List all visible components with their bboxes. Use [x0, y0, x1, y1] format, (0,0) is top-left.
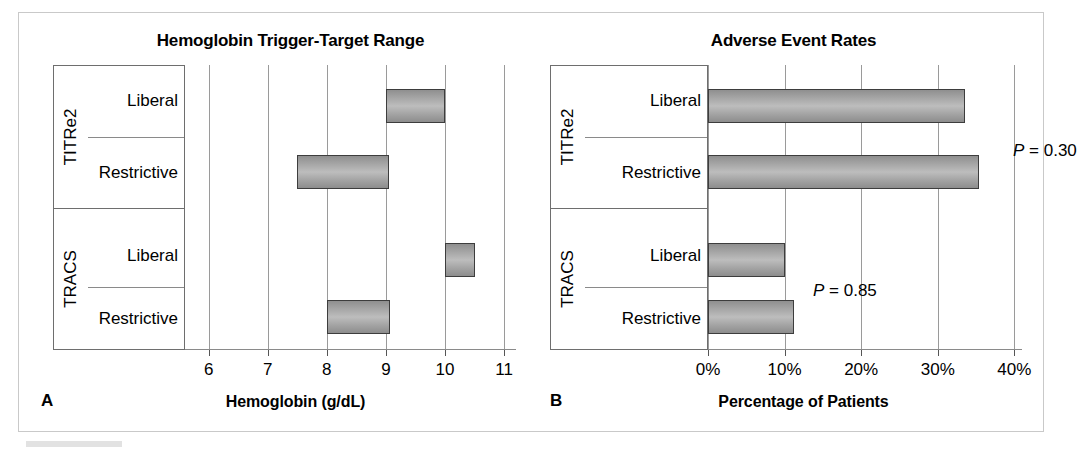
axis-tick-label: 0%	[696, 360, 721, 380]
panel-b-plot-inner: 0%10%20%30%40%P = 0.30P = 0.85	[708, 65, 1022, 350]
axis-tick	[327, 350, 328, 356]
bar-tracs-restrictive	[708, 300, 794, 334]
axis-tick-label: 6	[204, 360, 213, 380]
bar-titre2-restrictive	[297, 155, 389, 189]
gridline	[504, 65, 505, 350]
panel-b-title: Adverse Event Rates	[532, 31, 1045, 51]
panel-b-arm-tracs-restrictive: Restrictive	[585, 287, 707, 349]
panel-a-arm-tracs-liberal: Liberal	[88, 225, 184, 287]
panel-a-titre2-arms: Liberal Restrictive	[88, 66, 184, 208]
axis-tick-label: 9	[381, 360, 390, 380]
axis-tick	[445, 350, 446, 356]
axis-tick	[708, 350, 709, 356]
gridline	[445, 65, 446, 350]
axis-tick-label: 7	[263, 360, 272, 380]
axis-tick	[209, 350, 210, 356]
panel-b-category-labels: TITRe2 Liberal Restrictive TRACS Liberal…	[550, 65, 708, 350]
panel-b-group-tracs: TRACS Liberal Restrictive	[551, 208, 707, 350]
panel-b-plot-area: 0%10%20%30%40%P = 0.30P = 0.85	[708, 65, 1022, 350]
panel-a-group-tracs: TRACS Liberal Restrictive	[54, 208, 184, 350]
panel-a-arm-titre2-liberal: Liberal	[88, 66, 184, 137]
panel-a-axis-baseline	[185, 349, 516, 350]
axis-tick	[938, 350, 939, 356]
panel-a-group-titre2: TITRe2 Liberal Restrictive	[54, 66, 184, 208]
panel-b: Adverse Event Rates TITRe2 Liberal Restr…	[532, 13, 1045, 433]
axis-tick-label: 10	[436, 360, 455, 380]
panel-b-tracs-arms: Liberal Restrictive	[585, 209, 707, 350]
panel-b-arm-tracs-liberal: Liberal	[585, 225, 707, 287]
bar-titre2-liberal	[708, 89, 965, 123]
panel-a-plot-area: 67891011	[185, 65, 516, 350]
panel-b-titre2-arms: Liberal Restrictive	[585, 66, 707, 208]
gridline	[1014, 65, 1015, 350]
axis-tick	[1014, 350, 1015, 356]
panel-a-category-labels: TITRe2 Liberal Restrictive TRACS Liberal…	[53, 65, 185, 350]
bar-tracs-restrictive	[327, 300, 390, 334]
panel-a-trial-label-tracs: TRACS	[54, 209, 88, 350]
axis-tick	[386, 350, 387, 356]
panel-b-axis-baseline	[708, 349, 1022, 350]
panel-b-trial-label-tracs: TRACS	[551, 209, 585, 350]
axis-tick-label: 40%	[997, 360, 1031, 380]
axis-tick-label: 8	[322, 360, 331, 380]
panel-a-axis-title: Hemoglobin (g/dL)	[19, 393, 532, 411]
panel-a-arm-tracs-restrictive: Restrictive	[88, 287, 184, 349]
axis-tick	[504, 350, 505, 356]
axis-tick	[785, 350, 786, 356]
panel-a-trial-label-titre2: TITRe2	[54, 66, 88, 208]
axis-tick-label: 10%	[768, 360, 802, 380]
panel-a: Hemoglobin Trigger-Target Range TITRe2 L…	[19, 13, 532, 433]
bar-tracs-liberal	[708, 243, 785, 277]
panel-a-plot-inner: 67891011	[185, 65, 516, 350]
gridline	[268, 65, 269, 350]
axis-tick	[861, 350, 862, 356]
axis-tick	[268, 350, 269, 356]
figure-frame: Hemoglobin Trigger-Target Range TITRe2 L…	[18, 12, 1044, 432]
panel-a-arm-titre2-restrictive: Restrictive	[88, 137, 184, 208]
panel-b-arm-titre2-liberal: Liberal	[585, 66, 707, 137]
axis-tick-label: 20%	[844, 360, 878, 380]
scan-artifact-smudge	[26, 441, 122, 447]
bar-titre2-restrictive	[708, 155, 979, 189]
panel-b-trial-label-titre2: TITRe2	[551, 66, 585, 208]
bar-tracs-liberal	[445, 243, 475, 277]
axis-tick-label: 30%	[921, 360, 955, 380]
p-value-tracs: P = 0.85	[813, 281, 877, 301]
axis-tick-label: 11	[495, 360, 513, 380]
panel-a-tracs-arms: Liberal Restrictive	[88, 209, 184, 350]
bar-titre2-liberal	[386, 89, 445, 123]
panel-b-arm-titre2-restrictive: Restrictive	[585, 137, 707, 208]
p-value-titre2: P = 0.30	[1013, 141, 1077, 161]
gridline	[209, 65, 210, 350]
panel-a-title: Hemoglobin Trigger-Target Range	[19, 31, 532, 51]
panel-b-axis-title: Percentage of Patients	[532, 393, 1045, 411]
panel-b-group-titre2: TITRe2 Liberal Restrictive	[551, 66, 707, 208]
